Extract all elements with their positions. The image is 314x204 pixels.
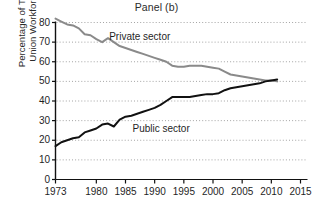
series-label-public-sector: Public sector bbox=[133, 123, 190, 134]
series-line-public-sector bbox=[56, 79, 278, 146]
y-tick-label-20: 20 bbox=[28, 135, 50, 145]
y-tick-label-60: 60 bbox=[28, 57, 50, 67]
y-tick-label-30: 30 bbox=[28, 116, 50, 126]
x-tick-label-1973: 1973 bbox=[39, 187, 73, 197]
series-line-private-sector bbox=[56, 19, 278, 82]
x-tick-label-2015: 2015 bbox=[284, 187, 314, 197]
y-tick-label-10: 10 bbox=[28, 155, 50, 165]
y-tick-label-40: 40 bbox=[28, 96, 50, 106]
chart-figure: Panel (b) Percentage of Total Union Work… bbox=[0, 0, 313, 204]
y-tick-label-50: 50 bbox=[28, 76, 50, 86]
series-label-private-sector: Private sector bbox=[109, 31, 170, 42]
y-tick-label-80: 80 bbox=[28, 18, 50, 28]
y-tick-label-0: 0 bbox=[28, 175, 50, 185]
y-tick-label-70: 70 bbox=[28, 37, 50, 47]
